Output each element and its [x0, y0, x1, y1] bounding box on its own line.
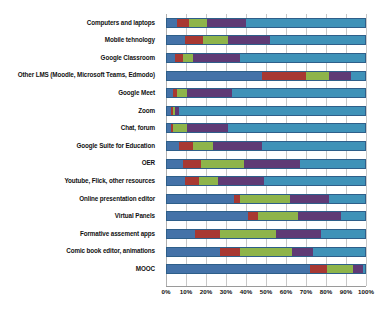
- bar-segment: [300, 160, 365, 168]
- bar-segment: [363, 265, 365, 273]
- bar-row: [166, 32, 366, 50]
- bar-segment: [248, 212, 258, 220]
- category-label: Comic book editor, animations: [0, 243, 160, 261]
- bar-segment: [298, 212, 342, 220]
- bar-segment: [167, 212, 248, 220]
- category-label: Google Meet: [0, 84, 160, 102]
- bar-segment: [327, 265, 353, 273]
- bar-row: [166, 225, 366, 243]
- bar-segment: [321, 230, 365, 238]
- bar-segment: [167, 19, 177, 27]
- bar-segment: [240, 248, 291, 256]
- bar-segment: [240, 195, 290, 203]
- bar-segment: [167, 265, 310, 273]
- category-label: Zoom: [0, 102, 160, 120]
- category-label: Google Classroom: [0, 49, 160, 67]
- category-label: Virtual Panels: [0, 208, 160, 226]
- category-label: Online presentation editor: [0, 190, 160, 208]
- bar-segment: [351, 72, 365, 80]
- bar-segment: [193, 142, 213, 150]
- bar-row: [166, 49, 366, 67]
- bar-segment: [187, 89, 233, 97]
- bar-segment: [220, 248, 240, 256]
- category-label: Chat, forum: [0, 120, 160, 138]
- x-axis-line: [166, 286, 366, 287]
- bar-row: [166, 172, 366, 190]
- category-label: Computers and laptops: [0, 14, 160, 32]
- x-tick-label: 0%: [162, 288, 171, 295]
- stacked-bar: [166, 106, 366, 116]
- bar-segment: [167, 160, 183, 168]
- bar-segment: [187, 124, 229, 132]
- bar-segment: [199, 177, 219, 185]
- stacked-bar: [166, 71, 366, 81]
- bar-segment: [167, 195, 234, 203]
- bar-segment: [167, 36, 185, 44]
- stacked-bar: [166, 88, 366, 98]
- bar-segment: [175, 54, 183, 62]
- bar-segment: [313, 248, 364, 256]
- bar-segment: [341, 212, 365, 220]
- gridline: [366, 14, 367, 286]
- bar-segment: [177, 89, 187, 97]
- bar-segment: [270, 36, 365, 44]
- bar-segment: [232, 89, 365, 97]
- stacked-bar: [166, 247, 366, 257]
- bar-segment: [262, 142, 365, 150]
- category-label: Mobile tehnology: [0, 32, 160, 50]
- bar-row: [166, 120, 366, 138]
- stacked-bar: [166, 176, 366, 186]
- bar-segment: [228, 124, 365, 132]
- bar-segment: [292, 248, 314, 256]
- x-tick-label: 10%: [180, 288, 192, 295]
- bar-segment: [264, 177, 365, 185]
- bar-segment: [329, 72, 351, 80]
- bar-segment: [177, 19, 189, 27]
- bar-segment: [167, 230, 195, 238]
- category-label: Formative assement apps: [0, 225, 160, 243]
- bar-row: [166, 190, 366, 208]
- bar-row: [166, 155, 366, 173]
- bar-segment: [306, 72, 330, 80]
- bar-row: [166, 67, 366, 85]
- stacked-bar: [166, 18, 366, 28]
- x-tick-label: 20%: [200, 288, 212, 295]
- bar-segment: [173, 124, 187, 132]
- bar-segment: [167, 177, 185, 185]
- stacked-bar: [166, 159, 366, 169]
- x-tick-label: 60%: [280, 288, 292, 295]
- bar-segment: [183, 160, 201, 168]
- bar-segment: [167, 72, 262, 80]
- x-tick-label: 70%: [300, 288, 312, 295]
- x-tick-label: 40%: [240, 288, 252, 295]
- x-tick-label: 30%: [220, 288, 232, 295]
- x-tick-label: 50%: [260, 288, 272, 295]
- bar-row: [166, 14, 366, 32]
- plot-area: [166, 14, 366, 286]
- stacked-bar: [166, 194, 366, 204]
- bar-segment: [353, 265, 363, 273]
- bar-row: [166, 84, 366, 102]
- bar-segment: [185, 36, 203, 44]
- stacked-bar-chart: Computers and laptopsMobile tehnologyGoo…: [0, 0, 376, 320]
- bar-rows: [166, 14, 366, 286]
- bar-segment: [258, 212, 298, 220]
- category-label: Other LMS (Moodle, Microsoft Teams, Edmo…: [0, 67, 160, 85]
- bar-row: [166, 102, 366, 120]
- bar-segment: [189, 19, 207, 27]
- stacked-bar: [166, 141, 366, 151]
- bar-row: [166, 260, 366, 278]
- bar-segment: [183, 54, 193, 62]
- bar-segment: [240, 54, 365, 62]
- stacked-bar: [166, 35, 366, 45]
- category-label: Youtube, Flick, other resources: [0, 172, 160, 190]
- bar-row: [166, 243, 366, 261]
- category-label: OER: [0, 155, 160, 173]
- bar-segment: [213, 142, 263, 150]
- category-label: MOOC: [0, 260, 160, 278]
- bar-segment: [179, 107, 365, 115]
- bar-segment: [228, 36, 270, 44]
- bar-segment: [201, 160, 245, 168]
- bar-segment: [310, 265, 328, 273]
- bar-segment: [207, 19, 247, 27]
